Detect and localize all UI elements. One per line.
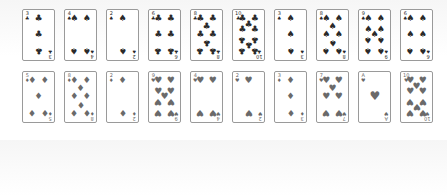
hearts-icon: ♥ [405, 108, 415, 117]
card-index-br: 3♠ [300, 49, 304, 59]
card-index-tl: 3♣ [25, 11, 29, 21]
spades-icon: ♠ [69, 14, 79, 23]
spades-icon: ♠ [363, 35, 373, 44]
hearts-icon: ♥ [258, 111, 262, 116]
card-index-tl: 2♠ [109, 11, 113, 21]
card-index-br: 3♦ [300, 111, 304, 121]
diamonds-icon: ♦ [40, 108, 50, 117]
spades-icon: ♠ [277, 16, 281, 21]
clubs-icon: ♣ [34, 46, 44, 55]
clubs-icon: ♣ [166, 46, 176, 55]
clubs-icon: ♣ [166, 30, 176, 39]
card-4-of-hearts[interactable]: 4♥4♥♥♥♥♥ [190, 71, 223, 123]
hearts-icon: ♥ [244, 108, 254, 117]
card-index-tl: A♥ [361, 73, 365, 83]
card-9-of-spades[interactable]: 9♠9♠♠♠♠♠♠♠♠♠♠ [358, 9, 391, 61]
spades-icon: ♠ [405, 46, 415, 55]
hearts-icon: ♥ [195, 76, 205, 85]
card-2-of-spades[interactable]: 2♠2♠♠♠ [106, 9, 139, 61]
spades-icon: ♠ [418, 46, 428, 55]
card-8-of-spades[interactable]: 8♠8♠♠♠♠♠♠♠♠♠ [316, 9, 349, 61]
spades-icon: ♠ [69, 46, 79, 55]
diamonds-icon: ♦ [118, 76, 128, 85]
diamonds-icon: ♦ [132, 111, 136, 116]
hearts-icon: ♥ [153, 76, 163, 85]
card-row-bottom: 5♦5♦♦♦♦♦♦8♦8♦♦♦♦♦♦♦♦♦2♦2♦♦♦9♥9♥♥♥♥♥♥♥♥♥♥… [0, 71, 447, 125]
hearts-icon: ♥ [166, 97, 176, 106]
clubs-icon: ♣ [34, 30, 44, 39]
clubs-icon: ♣ [237, 25, 247, 34]
spades-icon: ♠ [118, 14, 128, 23]
card-9-of-hearts[interactable]: 9♥9♥♥♥♥♥♥♥♥♥♥ [148, 71, 181, 123]
diamonds-icon: ♦ [27, 76, 37, 85]
hearts-icon: ♥ [405, 87, 415, 96]
card-3-of-clubs[interactable]: 3♣3♣♣♣♣ [22, 9, 55, 61]
hearts-icon: ♥ [166, 76, 176, 85]
clubs-icon: ♣ [166, 14, 176, 23]
clubs-icon: ♣ [195, 46, 205, 55]
card-row-top: 3♣3♣♣♣♣4♠4♠♠♠♠♠2♠2♠♠♠6♣6♣♣♣♣♣♣♣8♣8♣♣♣♣♣♣… [0, 9, 447, 63]
clubs-icon: ♣ [208, 46, 218, 55]
card-10-of-hearts[interactable]: 10♥10♥♥♥♥♥♥♥♥♥♥♥ [400, 71, 433, 123]
card-index-br: 2♥ [258, 111, 262, 121]
clubs-icon: ♣ [153, 30, 163, 39]
hearts-icon: ♥ [418, 108, 428, 117]
hearts-icon: ♥ [208, 76, 218, 85]
diamonds-icon: ♦ [286, 76, 296, 85]
spades-icon: ♠ [286, 30, 296, 39]
card-A-of-hearts[interactable]: A♥A♥♥ [358, 71, 391, 123]
card-8-of-clubs[interactable]: 8♣8♣♣♣♣♣♣♣♣♣ [190, 9, 223, 61]
diamonds-icon: ♦ [300, 111, 304, 116]
card-index-tl: 2♦ [109, 73, 113, 83]
clubs-icon: ♣ [250, 46, 260, 55]
clubs-icon: ♣ [48, 49, 52, 54]
spades-icon: ♠ [118, 46, 128, 55]
card-6-of-spades[interactable]: 6♠6♠♠♠♠♠♠♠ [400, 9, 433, 61]
spades-icon: ♠ [418, 14, 428, 23]
card-index-br: 2♦ [132, 111, 136, 121]
card-2-of-hearts[interactable]: 2♥2♥♥♥ [232, 71, 265, 123]
diamonds-icon: ♦ [118, 108, 128, 117]
hearts-icon: ♥ [321, 108, 331, 117]
spades-icon: ♠ [376, 46, 386, 55]
clubs-icon: ♣ [153, 46, 163, 55]
card-index-tl: 3♦ [277, 73, 281, 83]
clubs-icon: ♣ [237, 46, 247, 55]
card-3-of-spades[interactable]: 3♠3♠♠♠♠ [274, 9, 307, 61]
hearts-icon: ♥ [235, 78, 239, 83]
diamonds-icon: ♦ [286, 92, 296, 101]
card-5-of-diamonds[interactable]: 5♦5♦♦♦♦♦♦ [22, 71, 55, 123]
hearts-icon: ♥ [166, 108, 176, 117]
hearts-icon: ♥ [334, 92, 344, 101]
card-10-of-clubs[interactable]: 10♣10♣♣♣♣♣♣♣♣♣♣♣ [232, 9, 265, 61]
spades-icon: ♠ [405, 14, 415, 23]
diamonds-icon: ♦ [27, 108, 37, 117]
card-4-of-spades[interactable]: 4♠4♠♠♠♠♠ [64, 9, 97, 61]
hearts-icon: ♥ [195, 108, 205, 117]
spades-icon: ♠ [82, 46, 92, 55]
card-3-of-diamonds[interactable]: 3♦3♦♦♦♦ [274, 71, 307, 123]
hearts-icon: ♥ [418, 87, 428, 96]
hearts-icon: ♥ [153, 108, 163, 117]
hearts-icon: ♥ [321, 92, 331, 101]
diamonds-icon: ♦ [286, 108, 296, 117]
hearts-icon: ♥ [153, 97, 163, 106]
card-index-tl: 2♥ [235, 73, 239, 83]
card-8-of-diamonds[interactable]: 8♦8♦♦♦♦♦♦♦♦♦ [64, 71, 97, 123]
clubs-icon: ♣ [34, 14, 44, 23]
spades-icon: ♠ [321, 46, 331, 55]
card-6-of-clubs[interactable]: 6♣6♣♣♣♣♣♣♣ [148, 9, 181, 61]
clubs-icon: ♣ [153, 14, 163, 23]
spades-icon: ♠ [418, 30, 428, 39]
card-index-br: 2♠ [132, 49, 136, 59]
card-7-of-hearts[interactable]: 7♥7♥♥♥♥♥♥♥♥ [316, 71, 349, 123]
hearts-icon: ♥ [334, 108, 344, 117]
spades-icon: ♠ [376, 14, 386, 23]
spades-icon: ♠ [300, 49, 304, 54]
card-2-of-diamonds[interactable]: 2♦2♦♦♦ [106, 71, 139, 123]
diamonds-icon: ♦ [69, 108, 79, 117]
card-index-br: 3♣ [48, 49, 52, 59]
clubs-icon: ♣ [25, 16, 29, 21]
diamonds-icon: ♦ [82, 108, 92, 117]
spades-icon: ♠ [286, 14, 296, 23]
